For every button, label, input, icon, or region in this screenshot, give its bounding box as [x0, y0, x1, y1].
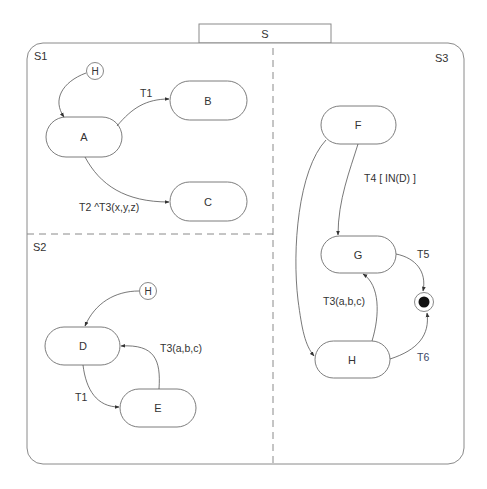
- transition-label-f-g: T4 [ IN(D) ]: [364, 172, 416, 184]
- root-state-label: S: [261, 28, 268, 40]
- state-e[interactable]: E: [120, 389, 196, 427]
- state-d-label: D: [79, 340, 87, 352]
- transition-label-h-final: T6: [417, 351, 429, 363]
- state-f[interactable]: F: [321, 106, 396, 144]
- state-h-label: H: [348, 354, 356, 366]
- transition-label-g-final: T5: [417, 248, 429, 260]
- history-label-s1: H: [91, 66, 98, 77]
- state-h[interactable]: H: [315, 341, 390, 378]
- state-e-label: E: [154, 402, 161, 414]
- state-g-label: G: [354, 249, 363, 261]
- state-b[interactable]: B: [170, 81, 247, 120]
- state-g[interactable]: G: [321, 236, 396, 273]
- state-a[interactable]: A: [46, 117, 122, 157]
- transition-label-e-d: T3(a,b,c): [160, 342, 202, 354]
- region-label-s2: S2: [33, 241, 46, 253]
- state-f-label: F: [355, 119, 362, 131]
- region-label-s3: S3: [435, 52, 448, 64]
- final-state[interactable]: [415, 293, 434, 312]
- transition-label-a-c: T2 ^T3(x,y,z): [79, 201, 139, 213]
- final-state-dot: [419, 297, 430, 308]
- transition-label-a-b: T1: [140, 87, 152, 99]
- state-b-label: B: [204, 95, 211, 107]
- root-state-tab: S: [199, 24, 331, 43]
- transition-label-h-g: T3(a,b,c): [323, 295, 365, 307]
- history-node-s2[interactable]: H: [140, 283, 157, 300]
- state-c-label: C: [204, 196, 212, 208]
- history-node-s1[interactable]: H: [87, 63, 104, 80]
- state-a-label: A: [80, 131, 88, 143]
- state-d[interactable]: D: [45, 327, 120, 365]
- state-c[interactable]: C: [170, 182, 247, 221]
- history-label-s2: H: [144, 286, 151, 297]
- region-label-s1: S1: [34, 50, 47, 62]
- statechart-diagram: S S1 S2 S3 H A B C T1 T2 ^T3(x,y,z) H D: [0, 0, 487, 489]
- transition-label-d-e: T1: [75, 391, 87, 403]
